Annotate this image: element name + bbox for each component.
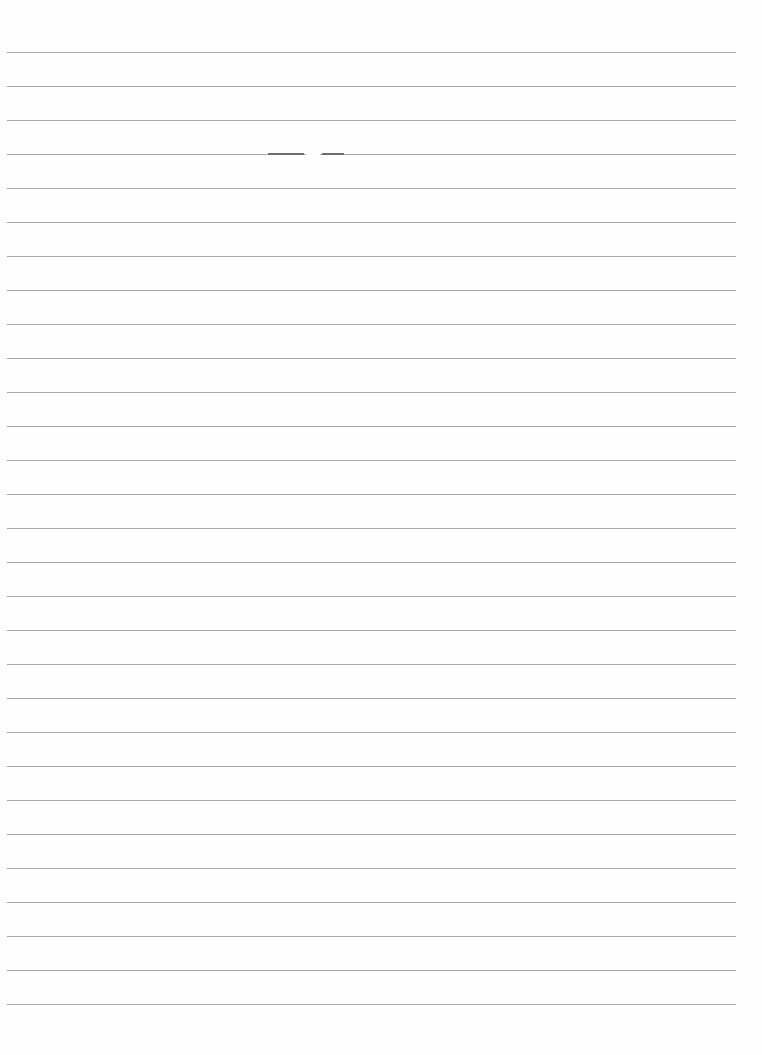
ruled-line [7, 1004, 736, 1005]
ruled-line [7, 120, 736, 121]
ruled-line [7, 732, 736, 733]
ruled-line [7, 800, 736, 801]
ruled-line [7, 528, 736, 529]
ruled-line [7, 868, 736, 869]
ruled-line [7, 290, 736, 291]
ruled-line [7, 86, 736, 87]
ruled-line [7, 426, 736, 427]
ruled-line [7, 834, 736, 835]
ruled-line [7, 698, 736, 699]
ruled-line [7, 596, 736, 597]
ruled-line [7, 562, 736, 563]
ruled-line [7, 460, 736, 461]
ruled-line [7, 188, 736, 189]
ruled-line [7, 630, 736, 631]
ruled-line [7, 766, 736, 767]
ruled-line [7, 256, 736, 257]
ink-smudge [322, 153, 344, 155]
ruled-line [7, 392, 736, 393]
ruled-line [7, 494, 736, 495]
ruled-line [7, 52, 736, 53]
ruled-line [7, 936, 736, 937]
lined-paper-page [0, 0, 762, 1055]
ruled-line [7, 358, 736, 359]
ink-smudge [268, 153, 304, 155]
ruled-line [7, 154, 736, 155]
ruled-line [7, 664, 736, 665]
ruled-line [7, 222, 736, 223]
ruled-line [7, 324, 736, 325]
ruled-line [7, 902, 736, 903]
line-gap [306, 152, 320, 155]
ruled-line [7, 970, 736, 971]
